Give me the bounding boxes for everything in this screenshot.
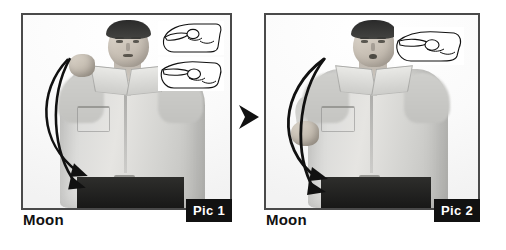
mouth [123,54,133,57]
collar-left [90,65,131,96]
shirt-placket [370,84,373,173]
eyebrow-left [115,37,124,39]
photo-pic-2 [266,15,478,208]
handshape-bottom-glyph [158,57,224,91]
trousers [77,177,185,208]
eye-right [378,40,385,43]
trousers [321,177,431,208]
raised-fist [69,54,96,77]
shirt-pocket [77,106,110,132]
collar-right [371,65,413,96]
caption-pic-2: Moon [266,212,307,227]
eyebrow-right [131,37,140,39]
handshape-line-drawing-top [158,21,224,55]
nose [371,43,375,51]
right-triangle-arrow-icon [238,104,260,130]
nose [126,43,130,51]
shirt-placket [124,84,127,173]
mouth [369,54,377,59]
handshape-line-drawing-bottom [158,57,224,91]
eye-left [361,40,368,43]
handshape-line-drawing [394,27,464,65]
photo-panel-pic-1 [21,13,232,210]
collar-left [335,65,377,96]
lowered-hand [291,121,319,146]
shirt-pocket [321,106,355,132]
status-badge-pic-2: Pic 2 [434,199,480,222]
handshape-top-glyph [158,21,224,55]
photo-panel-pic-2 [264,13,480,210]
photo-pic-1 [23,15,230,208]
status-badge-pic-1: Pic 1 [186,199,232,222]
sign-language-figure: Moon Pic 1 Moon Pic 2 [0,0,506,250]
handshape-glyph [394,27,464,65]
eye-left [116,40,123,43]
caption-pic-1: Moon [23,212,64,227]
eye-right [133,40,140,43]
